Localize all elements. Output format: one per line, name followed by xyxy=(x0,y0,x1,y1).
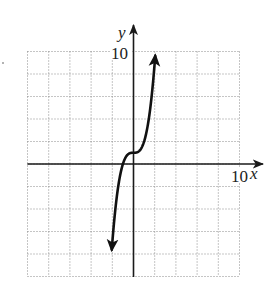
stray-mark xyxy=(2,62,4,64)
y-tick-label-10: 10 xyxy=(111,44,128,63)
cubic-graph: y 10 10 x xyxy=(0,0,274,305)
x-axis-label: x xyxy=(249,164,258,183)
y-axis-label: y xyxy=(116,23,126,42)
x-tick-label-10: 10 xyxy=(231,167,248,186)
